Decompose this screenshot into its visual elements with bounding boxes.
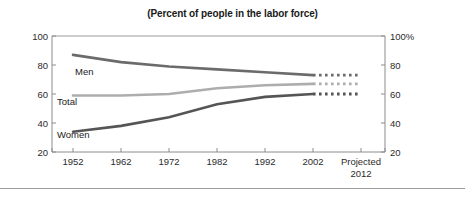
y-axis-right-ticks (381, 36, 385, 152)
series-label-total: Total (57, 96, 77, 107)
series-line-total (73, 84, 313, 96)
y-axis-left-label-60: 60 (14, 89, 48, 100)
y-axis-right-label-100: 100% (390, 31, 430, 42)
chart-figure: (Percent of people in the labor force) (0, 0, 465, 197)
y-axis-right-label-40: 40 (390, 118, 430, 129)
x-axis-label-1962: 1962 (94, 156, 148, 167)
axis-lines (52, 36, 385, 152)
y-axis-left-label-80: 80 (14, 60, 48, 71)
series-line-men (73, 55, 313, 75)
x-axis-label-2002: 2002 (286, 156, 340, 167)
x-axis-label-projected-year: 2012 (334, 168, 388, 179)
y-axis-left-ticks (52, 36, 56, 152)
x-axis-label-1972: 1972 (142, 156, 196, 167)
series-label-women: Women (57, 129, 90, 140)
y-axis-right-label-20: 20 (390, 147, 430, 158)
x-axis-ticks (52, 148, 385, 152)
series-label-men: Men (75, 66, 93, 77)
x-axis-label-1992: 1992 (238, 156, 292, 167)
x-axis-label-projected: Projected (334, 156, 388, 167)
footer-divider (0, 188, 465, 189)
y-axis-left-label-100: 100 (14, 31, 48, 42)
y-axis-right-label-80: 80 (390, 60, 430, 71)
y-axis-left-label-20: 20 (14, 147, 48, 158)
x-axis-label-1982: 1982 (190, 156, 244, 167)
y-axis-left-label-40: 40 (14, 118, 48, 129)
series-line-women (73, 94, 313, 132)
y-axis-right-label-60: 60 (390, 89, 430, 100)
x-axis-label-1952: 1952 (46, 156, 100, 167)
